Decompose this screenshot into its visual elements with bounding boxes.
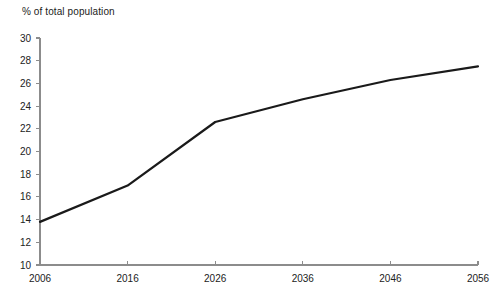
y-tick-label: 20: [20, 146, 32, 157]
y-tick-label: 18: [20, 169, 32, 180]
line-chart-plot: 1012141618202224262830 20062016202620362…: [0, 0, 499, 297]
y-tick-label: 24: [20, 101, 32, 112]
y-tick-label: 28: [20, 55, 32, 66]
x-tick-label: 2006: [29, 273, 52, 284]
x-tick-label: 2046: [379, 273, 402, 284]
x-tick-label: 2026: [204, 273, 227, 284]
x-tick-label: 2036: [292, 273, 315, 284]
x-axis-group: 200620162026203620462056: [29, 261, 490, 284]
y-tick-label: 26: [20, 78, 32, 89]
y-tick-label: 22: [20, 123, 32, 134]
series-line-population: [40, 66, 478, 221]
y-axis-group: 1012141618202224262830: [20, 33, 40, 271]
x-tick-label: 2016: [116, 273, 139, 284]
y-tick-label: 16: [20, 191, 32, 202]
y-tick-label: 30: [20, 33, 32, 44]
y-tick-label: 14: [20, 214, 32, 225]
y-tick-label: 12: [20, 237, 32, 248]
series-group: [40, 66, 478, 221]
x-tick-label: 2056: [467, 273, 490, 284]
chart-container: % of total population 101214161820222426…: [0, 0, 499, 297]
y-tick-label: 10: [20, 260, 32, 271]
